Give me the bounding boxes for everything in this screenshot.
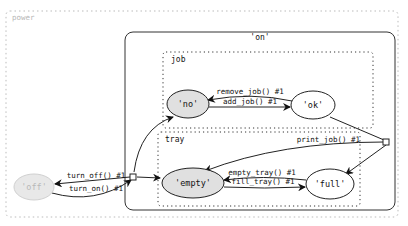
transition-on-to-empty (137, 177, 160, 178)
state-ok-label: 'ok' (303, 100, 323, 110)
state-off[interactable]: 'off' (14, 174, 54, 200)
transition-fill-tray[interactable] (224, 187, 305, 188)
label-add-job: add_job() #1 (223, 97, 277, 106)
state-no[interactable]: 'no' (167, 90, 209, 118)
state-empty-label: 'empty' (175, 178, 211, 188)
region-tray-label: tray (165, 135, 184, 144)
state-full-label: 'full' (315, 179, 346, 189)
region-job-label: job (171, 55, 186, 64)
label-turn-off: turn_off() #1 (67, 171, 126, 180)
region-power-label: power (12, 13, 35, 22)
state-full[interactable]: 'full' (306, 169, 354, 199)
junction-left (130, 174, 136, 180)
state-empty[interactable]: 'empty' (162, 168, 224, 198)
transition-on-to-no (134, 117, 173, 172)
region-on-label: 'on' (250, 33, 269, 42)
label-turn-on: turn_on() #1 (69, 184, 123, 193)
label-fill-tray: fill_tray() #1 (231, 177, 294, 186)
label-empty-tray: empty_tray() #1 (228, 168, 296, 177)
state-no-label: 'no' (178, 99, 198, 109)
label-print-job: print_job() #1 (297, 135, 360, 144)
transition-print-job[interactable] (205, 142, 384, 171)
state-ok[interactable]: 'ok' (291, 91, 335, 119)
state-off-label: 'off' (21, 182, 47, 192)
junction-right (383, 139, 389, 145)
label-remove-job: remove_job() #1 (216, 87, 284, 96)
transition-print-job-to-full[interactable] (346, 145, 386, 174)
state-diagram: power 'on' job tray (0, 0, 408, 226)
